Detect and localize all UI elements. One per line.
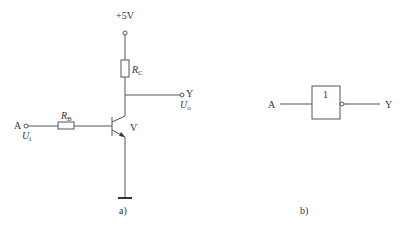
output-voltage-label: Uo (180, 99, 191, 112)
transistor-label: V (130, 122, 138, 133)
output-terminal (180, 93, 184, 97)
emitter-arrow-icon (119, 132, 125, 137)
inversion-bubble-icon (340, 102, 344, 106)
gate-output-label: Y (385, 99, 392, 110)
input-voltage-label: Ui (22, 130, 31, 143)
transistor-collector (112, 116, 125, 122)
gate-function-symbol: 1 (323, 89, 328, 100)
figure-a-caption: a) (119, 205, 127, 217)
collector-resistor (121, 60, 129, 77)
supply-terminal (123, 31, 127, 35)
npn-transistor (112, 116, 125, 137)
collector-resistor-label: RC (131, 64, 143, 77)
supply-voltage-label: +5V (116, 10, 135, 21)
base-resistor-label: RB (60, 110, 72, 123)
output-label: Y (186, 88, 193, 99)
input-label: A (14, 120, 22, 131)
transistor-inverter-circuit: +5V RC Y Uo V A Ui RB a) (14, 10, 193, 217)
circuit-diagram: +5V RC Y Uo V A Ui RB a) A (0, 0, 403, 228)
input-terminal (24, 124, 28, 128)
figure-b-caption: b) (300, 205, 308, 217)
gate-input-label: A (268, 99, 276, 110)
not-gate-symbol: A 1 Y b) (268, 86, 392, 217)
base-resistor (58, 122, 74, 129)
